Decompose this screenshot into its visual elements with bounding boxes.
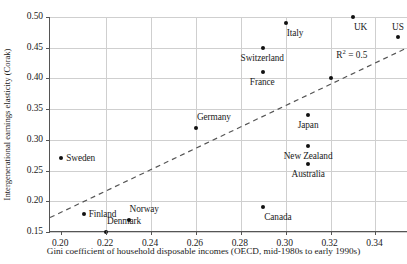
gridline-vertical [196,17,197,231]
x-tick-mark [151,231,152,235]
gridline-vertical [331,17,332,231]
gridline-vertical [286,17,287,231]
data-point [329,76,333,80]
y-tick-mark [46,109,50,110]
y-tick-label: 0.20 [27,195,43,205]
y-tick-label: 0.40 [27,72,43,82]
gridline-horizontal [50,201,407,202]
gridline-vertical [241,17,242,231]
data-point [261,70,265,74]
data-point-label: Italy [287,28,304,38]
plot-area: SwedenFinlandDenmarkNorwayGermanyCanadaF… [49,17,407,232]
data-point [284,21,288,25]
gridline-horizontal [50,78,407,79]
y-tick-label: 0.30 [27,134,43,144]
data-point [82,212,86,216]
data-point [306,113,310,117]
gridline-vertical [151,17,152,231]
x-tick-mark [196,231,197,235]
data-point [261,205,265,209]
x-tick-mark [375,231,376,235]
y-tick-mark [46,78,50,79]
x-tick-mark [286,231,287,235]
data-point [396,35,400,39]
data-point-label: Norway [130,204,159,214]
data-point-label: France [250,77,275,87]
data-point-label: Canada [264,212,291,222]
x-tick-mark [61,231,62,235]
y-tick-label: 0.15 [27,226,43,236]
gridline-horizontal [50,140,407,141]
data-point [59,156,63,160]
r-squared-annotation: R2 = 0.5 [336,48,367,60]
data-point-label: New Zealand [284,151,333,161]
y-axis-title: Intergenerational earnings elasticity (C… [2,17,16,232]
gridline-vertical [375,17,376,231]
data-point-label: UK [354,22,367,32]
data-point [351,15,355,19]
data-point-label: Japan [298,120,319,130]
y-tick-mark [46,140,50,141]
y-tick-mark [46,232,50,233]
gridline-horizontal [50,171,407,172]
y-tick-label: 0.25 [27,165,43,175]
data-point [306,162,310,166]
y-tick-label: 0.50 [27,11,43,21]
x-tick-mark [331,231,332,235]
gridline-horizontal [50,109,407,110]
y-tick-mark [46,171,50,172]
y-tick-label: 0.45 [27,42,43,52]
data-point [194,126,198,130]
y-tick-mark [46,48,50,49]
y-tick-mark [46,17,50,18]
data-point-label: Germany [197,112,231,122]
data-point-label: Australia [292,169,325,179]
data-point-label: Sweden [66,153,95,163]
x-tick-mark [106,231,107,235]
y-tick-label: 0.35 [27,103,43,113]
data-point-label: Denmark [107,216,141,226]
scatter-chart-figure: Intergenerational earnings elasticity (C… [0,0,407,264]
data-point-label: US [392,22,404,32]
data-point [306,144,310,148]
data-point-label: Switzerland [241,53,284,63]
gridline-vertical [106,17,107,231]
data-point [127,218,131,222]
cropped-title-remnant [0,0,407,6]
data-point [261,46,265,50]
x-axis-title: Gini coefficient of household disposable… [0,246,407,256]
y-tick-mark [46,201,50,202]
x-tick-mark [241,231,242,235]
